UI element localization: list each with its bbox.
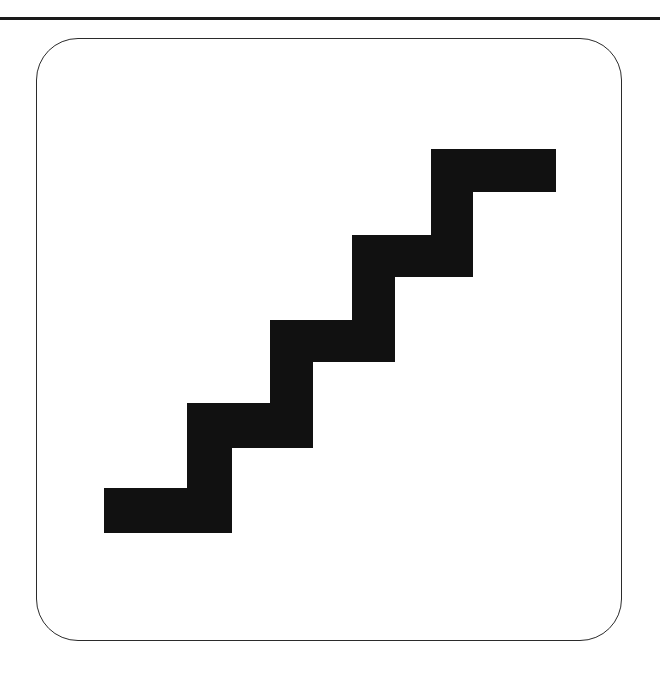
horizontal-divider bbox=[0, 17, 660, 20]
page-root bbox=[0, 0, 660, 678]
rounded-panel bbox=[36, 38, 622, 641]
